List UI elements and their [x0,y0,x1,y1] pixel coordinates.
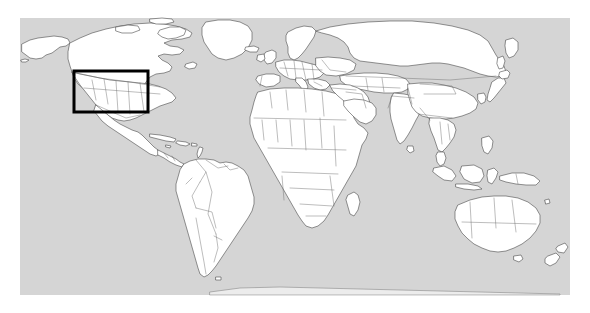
land-ellesmere [150,18,174,24]
world-map-figure [0,0,590,313]
land-falklands [216,277,221,280]
world-map-canvas [0,0,590,313]
land-fiji-pacific-isles [545,199,550,204]
land-iceland [245,46,259,52]
